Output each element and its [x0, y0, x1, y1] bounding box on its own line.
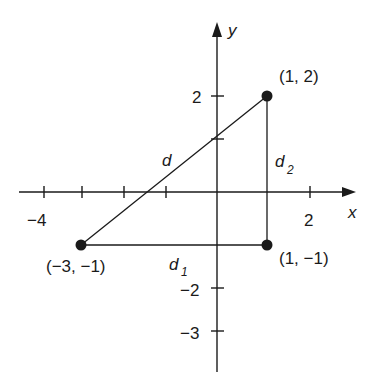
y-axis-label: y [227, 21, 238, 40]
segment-d1-subscript: 1 [181, 265, 188, 279]
x-axis [19, 186, 356, 198]
y-axis [211, 22, 224, 372]
coordinate-plane-figure: y x −4 2 2 −2 −3 (1, 2) (−3, −1) (1, −1)… [0, 0, 383, 391]
segment-d2-label: d 2 [275, 152, 294, 177]
point-c-marker [262, 91, 273, 102]
point-a-label: (−3, −1) [46, 257, 106, 276]
segment-d2-letter: d [275, 152, 285, 171]
x-axis-arrow-icon [342, 187, 356, 197]
y-tick-label-neg3: −3 [180, 324, 199, 343]
segment-d-label: d [162, 151, 172, 170]
x-axis-label: x [347, 203, 357, 222]
y-axis-arrow-icon [212, 22, 222, 37]
point-a-marker [76, 240, 87, 251]
segment-d2-subscript: 2 [286, 163, 294, 177]
x-tick-label-2: 2 [304, 211, 313, 230]
segment-d-hypotenuse [81, 96, 267, 245]
segment-d1-label: d 1 [169, 255, 188, 279]
x-tick-label-neg4: −4 [27, 211, 46, 230]
diagram-canvas: y x −4 2 2 −2 −3 (1, 2) (−3, −1) (1, −1)… [0, 0, 383, 391]
y-tick-label-2: 2 [192, 88, 201, 107]
segment-d1-letter: d [169, 255, 179, 274]
point-b-label: (1, −1) [279, 249, 329, 268]
point-c-label: (1, 2) [279, 67, 319, 86]
point-b-marker [262, 240, 273, 251]
y-tick-label-neg2: −2 [180, 281, 199, 300]
